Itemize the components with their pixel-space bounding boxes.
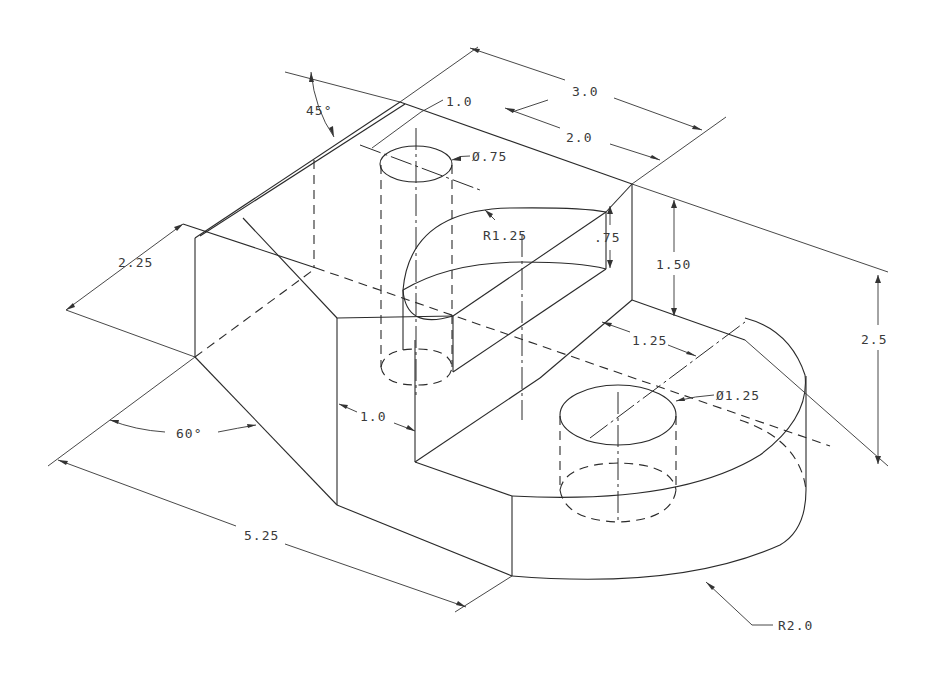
center-lines <box>360 128 745 520</box>
label-height-2-5: 2.5 <box>861 332 887 347</box>
dimension-lines <box>48 47 888 625</box>
label-offset-1-25: 1.25 <box>632 333 667 348</box>
label-radius-2-0: R2.0 <box>778 618 813 633</box>
label-depth-0-75: .75 <box>594 230 620 245</box>
label-length-5-25: 5.25 <box>244 528 279 543</box>
label-wall-1-0: 1.0 <box>360 409 386 424</box>
label-dia-0-75: Ø.75 <box>472 149 507 164</box>
dimension-labels: 45° 3.0 2.0 1.0 Ø.75 R1.25 .75 1.50 2.5 … <box>118 84 887 633</box>
hidden-lines <box>195 160 830 522</box>
label-offset-1-0-top: 1.0 <box>446 94 472 109</box>
object-outline <box>183 102 806 579</box>
arrowheads <box>58 48 881 607</box>
label-height-1-50: 1.50 <box>656 257 691 272</box>
label-angle-60: 60° <box>176 426 202 441</box>
label-depth-2-25: 2.25 <box>118 255 153 270</box>
label-width-3-0: 3.0 <box>572 84 598 99</box>
label-dia-1-25: Ø1.25 <box>716 388 760 403</box>
label-radius-1-25: R1.25 <box>483 228 527 243</box>
label-angle-45: 45° <box>306 103 332 118</box>
isometric-drawing: 45° 3.0 2.0 1.0 Ø.75 R1.25 .75 1.50 2.5 … <box>0 0 936 678</box>
label-width-2-0: 2.0 <box>566 130 592 145</box>
